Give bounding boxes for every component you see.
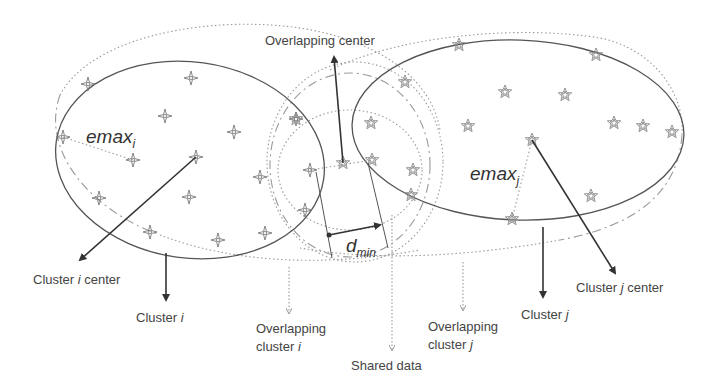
cluster-j-label: Cluster j	[521, 307, 570, 322]
overlapping-cluster-i-label-line2: cluster i	[256, 339, 302, 354]
dmin-label: dmin	[346, 235, 376, 260]
overlapping-cluster-j-label-line2: cluster j	[428, 337, 474, 352]
overlapping-center-label: Overlapping center	[265, 33, 376, 48]
cluster-i-points	[56, 71, 317, 247]
overlap-region-circles	[267, 62, 443, 262]
cluster-i-label: Cluster i	[136, 310, 185, 325]
cluster-j-points	[289, 38, 678, 225]
cluster-i-center-label: Cluster i center	[33, 272, 121, 287]
overlap-center-arrow	[334, 57, 343, 163]
cluster-j-center-label: Cluster j center	[576, 280, 664, 295]
shared-data-label: Shared data	[351, 358, 423, 373]
emax-j-label: emaxj	[470, 163, 519, 188]
overlapping-clusters-diagram: Overlapping center emaxi emaxj dmin Clus…	[0, 0, 714, 391]
cluster-j-center-arrow	[532, 140, 615, 273]
overlapping-cluster-j-label: Overlapping	[428, 319, 498, 334]
cluster-j-boundary	[349, 34, 687, 225]
overlapping-cluster-j-boundary	[300, 33, 682, 256]
cluster-i-center-arrow	[80, 157, 196, 260]
overlapping-cluster-i-label: Overlapping	[256, 321, 326, 336]
